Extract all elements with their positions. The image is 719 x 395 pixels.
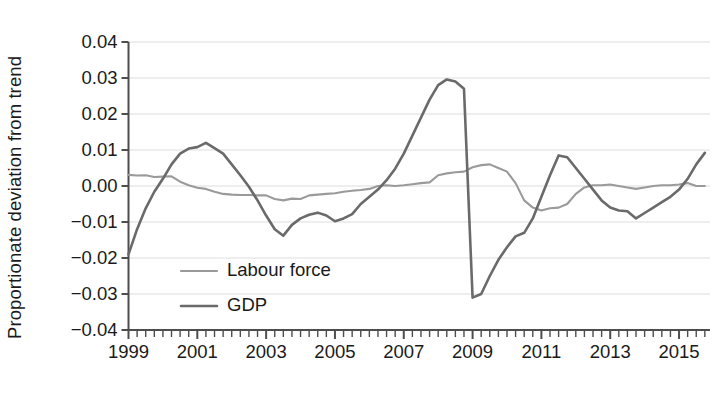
legend-swatches [181, 271, 217, 306]
series-line-gdp [129, 79, 705, 297]
chart-figure: Proportionate deviation from trend 0.040… [0, 0, 719, 395]
y-axis-ticks [122, 42, 129, 330]
x-axis-ticks [129, 330, 705, 339]
plot-area [0, 0, 719, 395]
legend-label-gdp: GDP [227, 296, 267, 315]
data-series-layer [129, 79, 705, 297]
series-line-labour-force [129, 164, 705, 210]
legend-label-labour-force: Labour force [227, 261, 331, 280]
